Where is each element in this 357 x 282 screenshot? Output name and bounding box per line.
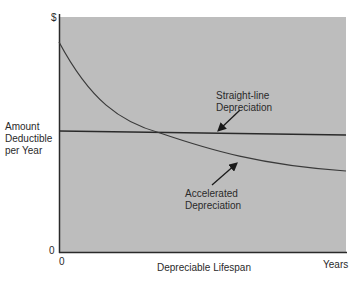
x-origin-tick: 0 [59,256,65,267]
annotation-line: Straight-line [216,90,272,102]
x-end-label: Years [323,259,348,270]
y-top-tick: $ [51,12,57,23]
straight-line-series [59,131,346,135]
y-axis-label-line: per Year [5,145,52,157]
chart-lines [0,0,357,282]
arrow-accelerated [212,164,236,185]
accelerated-series [59,42,346,171]
y-axis-label-line: Deductible [5,133,52,145]
x-axis-label: Depreciable Lifespan [157,262,251,273]
straight-line-annotation: Straight-line Depreciation [216,90,272,114]
y-axis-label: Amount Deductible per Year [5,121,52,157]
y-axis-label-line: Amount [5,121,52,133]
annotation-line: Depreciation [185,200,241,212]
accelerated-annotation: Accelerated Depreciation [185,188,241,212]
annotation-line: Depreciation [216,102,272,114]
annotation-line: Accelerated [185,188,241,200]
y-origin-tick: 0 [49,245,55,256]
